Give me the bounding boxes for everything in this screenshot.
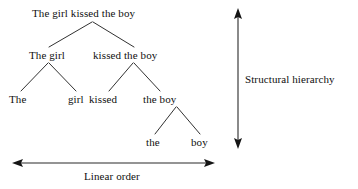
tree-node-np-the-girl: The girl xyxy=(29,49,65,61)
vertical-axis-arrow xyxy=(234,8,242,149)
horizontal-axis-label: Linear order xyxy=(84,170,140,182)
edge-np1-to-girl xyxy=(49,63,76,91)
tree-node-det-the-1: The xyxy=(9,93,26,105)
horizontal-axis-arrow xyxy=(12,159,215,167)
edge-vp1-to-kissed xyxy=(109,63,133,91)
tree-node-np-the-boy: the boy xyxy=(143,93,176,105)
edge-s-to-vp1 xyxy=(93,22,134,47)
vertical-axis-label: Structural hierarchy xyxy=(245,73,335,85)
tree-node-det-the-2: the xyxy=(146,136,160,148)
edge-np1-to-the xyxy=(21,63,48,91)
edge-np2-to-boy xyxy=(177,107,200,134)
tree-edges xyxy=(21,22,200,134)
tree-node-n-boy: boy xyxy=(191,136,208,148)
edge-vp1-to-np2 xyxy=(134,63,160,91)
edge-s-to-np1 xyxy=(49,22,92,47)
tree-node-n-girl: girl xyxy=(68,93,84,105)
tree-node-v-kissed: kissed xyxy=(89,93,117,105)
diagram-lines-layer xyxy=(0,0,358,189)
tree-node-sentence: The girl kissed the boy xyxy=(32,7,135,19)
tree-node-vp-kissed-the-boy: kissed the boy xyxy=(93,49,157,61)
edge-np2-to-the xyxy=(155,107,176,134)
syntax-tree-diagram: The girl kissed the boy The girl kissed … xyxy=(0,0,358,189)
